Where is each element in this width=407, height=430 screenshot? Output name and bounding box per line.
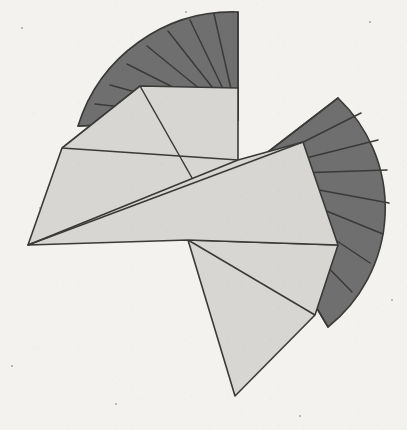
figure-canvas bbox=[0, 0, 407, 430]
geometric-diagram bbox=[0, 0, 407, 430]
